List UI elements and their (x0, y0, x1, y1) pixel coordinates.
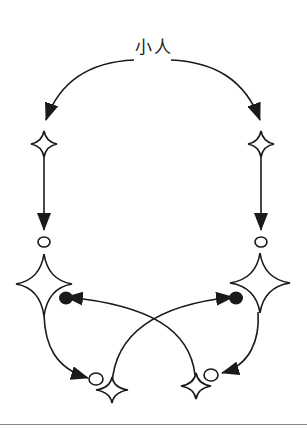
right-big-star-icon (230, 253, 290, 313)
right-filled-dot-icon (229, 292, 243, 305)
bottom-rule (0, 424, 307, 425)
arrow-right-big-star-to-circle (222, 312, 258, 373)
arrow-title-to-right (171, 60, 260, 120)
right-small-star-icon (248, 131, 274, 157)
diagram-canvas (0, 0, 307, 433)
left-small-star-icon (31, 131, 57, 157)
arrow-title-to-left (46, 60, 134, 120)
left-filled-dot-icon (59, 292, 73, 305)
arrow-left-big-star-to-circle (44, 315, 88, 378)
left-open-circle-icon (38, 237, 50, 247)
right-bottom-open-circle-icon (204, 369, 218, 381)
left-bottom-open-circle-icon (89, 373, 103, 385)
right-open-circle-icon (255, 237, 267, 247)
left-big-star-icon (16, 254, 72, 316)
